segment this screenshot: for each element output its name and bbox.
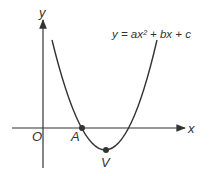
origin-label: O [32, 129, 42, 144]
parabola-curve [52, 40, 157, 150]
point-a [79, 125, 85, 131]
parabola-diagram: y x O A V y = ax² + bx + c [0, 0, 211, 176]
point-v [103, 147, 109, 153]
point-v-label: V [101, 155, 111, 170]
point-a-label: A [70, 129, 80, 144]
y-axis-label: y [38, 5, 47, 20]
equation-label: y = ax² + bx + c [111, 28, 191, 40]
x-axis-label: x [187, 121, 195, 136]
